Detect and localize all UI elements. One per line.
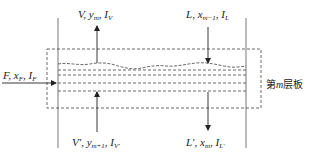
- vapor-out-label: V, ym, IV: [78, 9, 112, 22]
- vapor-in-label: V′, ym+1, IV′: [72, 137, 120, 150]
- feed-label: F, xF, IF: [3, 70, 36, 83]
- liquid-in-label: L, xm−1, IL: [186, 9, 229, 22]
- liquid-out-label: L′, xm, IL′: [186, 137, 225, 150]
- tray-diagram-canvas: [0, 0, 314, 156]
- liquid-surface-line: [58, 63, 246, 69]
- tray-label: 第m层板: [266, 80, 303, 90]
- tray-boundary-box: [47, 49, 261, 108]
